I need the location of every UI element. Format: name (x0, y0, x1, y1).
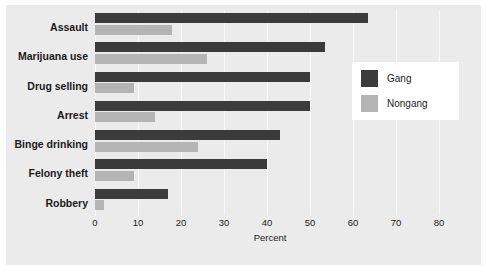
bar-nongang-assault (95, 25, 172, 35)
legend-item-nongang: Nongang (361, 95, 428, 112)
x-tick-label-10: 10 (133, 218, 144, 228)
x-axis-title: Percent (95, 233, 445, 243)
bar-gang-binge-drinking (95, 130, 280, 140)
bar-chart: AssaultMarijuana useDrug sellingArrestBi… (0, 0, 487, 270)
legend-swatch-nongang-icon (361, 95, 378, 112)
category-label-binge-drinking: Binge drinking (15, 139, 89, 150)
bar-gang-marijuana-use (95, 42, 325, 52)
bar-gang-drug-selling (95, 72, 310, 82)
x-tick-label-40: 40 (262, 218, 273, 228)
bar-gang-arrest (95, 101, 310, 111)
chart-legend: Gang Nongang (352, 62, 459, 120)
category-label-felony-theft: Felony theft (29, 168, 89, 179)
category-label-marijuana-use: Marijuana use (18, 51, 88, 62)
gridline-30 (224, 10, 225, 215)
bar-gang-felony-theft (95, 159, 267, 169)
x-tick-label-60: 60 (348, 218, 359, 228)
category-axis: AssaultMarijuana useDrug sellingArrestBi… (0, 10, 88, 215)
category-label-robbery: Robbery (45, 198, 88, 209)
x-tick-label-50: 50 (305, 218, 316, 228)
category-label-drug-selling: Drug selling (27, 81, 88, 92)
gridline-20 (181, 10, 182, 215)
bar-nongang-marijuana-use (95, 54, 207, 64)
bar-gang-robbery (95, 189, 168, 199)
legend-item-gang: Gang (361, 70, 411, 87)
category-label-arrest: Arrest (57, 110, 88, 121)
gridline-50 (310, 10, 311, 215)
bar-gang-assault (95, 13, 368, 23)
legend-label-gang: Gang (387, 74, 411, 84)
x-axis-line (95, 215, 445, 216)
category-label-assault: Assault (50, 22, 88, 33)
gridline-40 (267, 10, 268, 215)
bar-nongang-drug-selling (95, 83, 134, 93)
bar-nongang-robbery (95, 200, 104, 210)
x-tick-label-20: 20 (176, 218, 187, 228)
x-tick-label-30: 30 (219, 218, 230, 228)
bar-nongang-binge-drinking (95, 142, 198, 152)
x-tick-label-0: 0 (92, 218, 97, 228)
x-tick-label-70: 70 (391, 218, 402, 228)
legend-label-nongang: Nongang (387, 99, 428, 109)
legend-swatch-gang-icon (361, 70, 378, 87)
bar-nongang-arrest (95, 112, 155, 122)
bar-nongang-felony-theft (95, 171, 134, 181)
x-tick-label-80: 80 (434, 218, 445, 228)
